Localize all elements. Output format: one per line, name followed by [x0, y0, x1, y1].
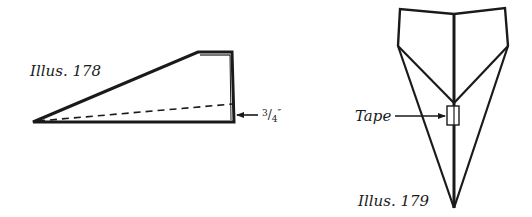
illustration-178: 3/4″ Illus. 178 [29, 52, 282, 124]
caption-illus-179: Illus. 179 [357, 192, 430, 210]
tape-strip [447, 106, 459, 125]
measurement-label: 3/4″ [262, 107, 282, 124]
tape-label: Tape [355, 107, 391, 125]
airplane-right-edge [454, 46, 508, 208]
diagram-canvas: 3/4″ Illus. 178 Tape Illus. 179 [0, 0, 532, 217]
airplane-left-fold [398, 46, 454, 103]
inner-fold-edge-vertical [230, 55, 231, 120]
illustration-179: Tape Illus. 179 [355, 8, 508, 210]
airplane-right-fold [454, 46, 508, 103]
caption-illus-178: Illus. 178 [29, 62, 101, 80]
airplane-left-edge [398, 46, 454, 208]
